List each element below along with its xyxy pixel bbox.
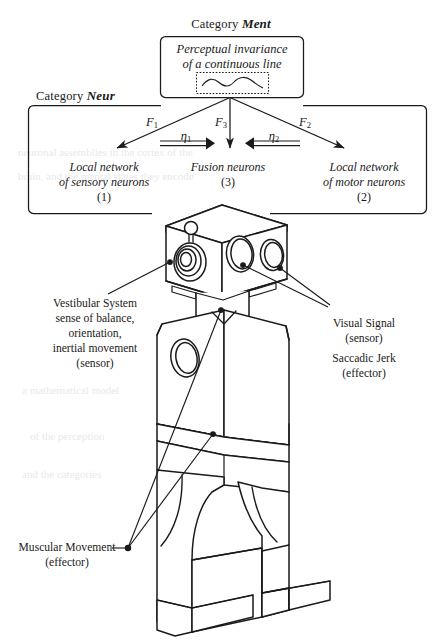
node-fusion-number: (3) [221, 175, 235, 189]
anno-muscular-line-1: (effector) [45, 556, 89, 570]
robot-torso [157, 310, 289, 462]
ment-line-1: Perceptual invariance [177, 42, 288, 57]
continuous-line-glyph [202, 77, 263, 88]
label-F1: F1 [146, 112, 158, 131]
anno-muscular-line-0: Muscular Movement [19, 541, 116, 555]
eta1-head [206, 137, 215, 149]
anno-vestibular-line-4: (sensor) [76, 357, 113, 371]
node-motor-line1: Local network [330, 160, 399, 174]
anno-vestibular-line-3: inertial movement [53, 342, 138, 356]
anno-saccadic-line-1: (effector) [342, 367, 386, 381]
category-neur-prefix: Category [36, 89, 83, 103]
anno-saccadic-line-0: Saccadic Jerk [332, 352, 395, 366]
category-ment-prefix: Category [191, 17, 238, 31]
node-motor-number: (2) [357, 190, 371, 204]
figure-canvas: neuronal assemblies in the cortex of the… [0, 0, 447, 644]
label-F1-symbol: F [146, 115, 154, 129]
node-fusion-line1: Fusion neurons [191, 160, 266, 174]
category-ment-label: Category Ment [191, 16, 271, 32]
label-eta1: η1 [181, 126, 191, 145]
leader-vestibular [108, 262, 170, 294]
robot-figure [157, 205, 330, 636]
label-F3-sub: 3 [223, 120, 227, 130]
label-F3: F3 [215, 112, 227, 131]
label-eta2: η2 [269, 126, 279, 145]
label-F2-symbol: F [299, 115, 307, 129]
label-eta2-sub: 2 [275, 134, 279, 144]
anno-visual-line-0: Visual Signal [333, 317, 395, 331]
node-sensory-line2: of sensory neurons [59, 175, 149, 189]
robot-head [166, 205, 287, 299]
ment-line-2: of a continuous line [183, 57, 282, 72]
node-motor-line2: of motor neurons [323, 175, 405, 189]
eta2-head [245, 137, 254, 149]
node-sensory-number: (1) [97, 190, 111, 204]
category-ment-name: Ment [242, 16, 271, 31]
label-F3-symbol: F [215, 115, 223, 129]
label-F2-sub: 2 [307, 120, 311, 130]
label-F2: F2 [299, 112, 311, 131]
category-neur-label: Category Neur [36, 88, 115, 104]
label-eta1-sub: 1 [187, 134, 191, 144]
anno-visual-line-1: (sensor) [345, 332, 382, 346]
category-neur-name: Neur [87, 88, 115, 103]
label-F1-sub: 1 [154, 120, 158, 130]
node-sensory-line1: Local network [70, 160, 139, 174]
anno-vestibular-line-1: sense of balance, [56, 312, 135, 326]
anno-vestibular-line-0: Vestibular System [53, 297, 137, 311]
anno-vestibular-line-2: orientation, [68, 327, 121, 341]
